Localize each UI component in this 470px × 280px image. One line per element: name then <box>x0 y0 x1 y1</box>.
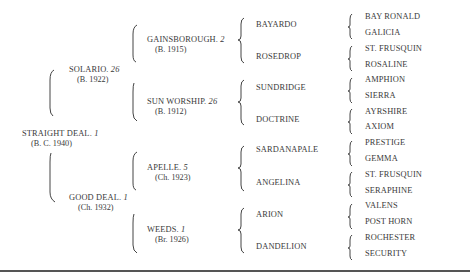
grandparent-name: APELLE. 5 <box>147 163 188 173</box>
great-grandparent: BAYARDO <box>256 20 297 30</box>
great-great-grandparent: PRESTIGE <box>365 138 405 148</box>
great-grandparent: DANDELION <box>256 242 307 252</box>
subject-name-text: STRAIGHT DEAL. <box>22 129 92 138</box>
great-great-grandparent: AYRSHIRE <box>365 107 407 117</box>
great-great-grandparent: SIERRA <box>365 91 396 101</box>
bracket-subject-top <box>50 70 54 116</box>
grandparent-number: 1 <box>181 225 185 234</box>
great-great-grandparent: AMPHION <box>365 75 405 85</box>
sire-name-text: SOLARIO. <box>69 65 109 74</box>
bottom-rule <box>0 270 470 272</box>
great-grandparent: DOCTRINE <box>256 115 300 125</box>
grandparent-detail: (B. 1912) <box>155 107 186 117</box>
grandparent-detail: (Ch. 1923) <box>155 173 190 183</box>
great-great-grandparent: ST. FRUSQUIN <box>365 170 422 180</box>
great-grandparent: ROSEDROP <box>256 52 301 62</box>
great-grandparent: SARDANAPALE <box>256 145 318 155</box>
grandparent-name-text: GAINSBOROUGH. <box>147 35 218 44</box>
grandparent-name-text: SUN WORSHIP. <box>147 97 206 106</box>
grandparent-detail: (Br. 1926) <box>155 235 189 245</box>
grandparent-name-text: APELLE. <box>147 163 181 172</box>
sire-number: 26 <box>111 65 120 74</box>
great-great-grandparent: ST. FRUSQUIN <box>365 44 422 54</box>
great-great-grandparent: GEMMA <box>365 154 398 164</box>
great-great-grandparent: BAY RONALD <box>365 12 420 22</box>
great-grandparent: ARION <box>256 210 283 220</box>
grandparent-detail: (B. 1915) <box>155 45 186 55</box>
grandparent-name: WEEDS. 1 <box>147 225 185 235</box>
dam-number: 1 <box>123 193 127 202</box>
sire-name: SOLARIO. 26 <box>69 65 120 75</box>
subject-detail: (B. C. 1940) <box>31 139 72 149</box>
dam-detail: (Ch. 1932) <box>78 203 113 213</box>
great-grandparent: SUNDRIDGE <box>256 83 306 93</box>
grandparent-number: 26 <box>209 97 218 106</box>
great-great-grandparent: GALICIA <box>365 28 400 38</box>
great-great-grandparent: ROCHESTER <box>365 233 415 243</box>
great-great-grandparent: ROSALINE <box>365 60 408 70</box>
grandparent-number: 2 <box>220 35 224 44</box>
great-great-grandparent: AXIOM <box>365 122 394 132</box>
dam-name-text: GOOD DEAL. <box>69 193 121 202</box>
great-great-grandparent: VALENS <box>365 201 398 211</box>
dam-name: GOOD DEAL. 1 <box>69 193 128 203</box>
subject-number: 1 <box>94 129 98 138</box>
grandparent-name: GAINSBOROUGH. 2 <box>147 35 225 45</box>
great-great-grandparent: SECURITY <box>365 249 407 259</box>
subject-name: STRAIGHT DEAL. 1 <box>22 129 98 139</box>
bracket-subject-bottom <box>50 153 55 202</box>
sire-detail: (B. 1922) <box>77 75 108 85</box>
great-great-grandparent: SERAPHINE <box>365 186 412 196</box>
great-great-grandparent: POST HORN <box>365 217 413 227</box>
grandparent-name-text: WEEDS. <box>147 225 179 234</box>
great-grandparent: ANGELINA <box>256 178 300 188</box>
grandparent-number: 5 <box>184 163 188 172</box>
grandparent-name: SUN WORSHIP. 26 <box>147 97 217 107</box>
